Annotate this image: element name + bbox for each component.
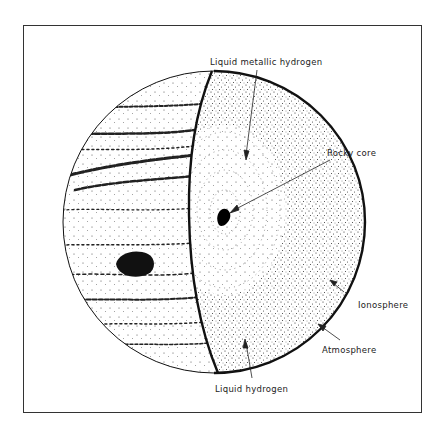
label-rocky-core: Rocky core <box>327 148 376 158</box>
banded-surface <box>50 70 210 380</box>
label-atmosphere: Atmosphere <box>322 345 376 355</box>
label-liquid-hydrogen: Liquid hydrogen <box>215 384 288 394</box>
label-liquid-metallic-hydrogen: Liquid metallic hydrogen <box>210 57 322 67</box>
label-ionosphere: Ionosphere <box>358 300 408 310</box>
leader-atmosphere <box>322 327 340 340</box>
